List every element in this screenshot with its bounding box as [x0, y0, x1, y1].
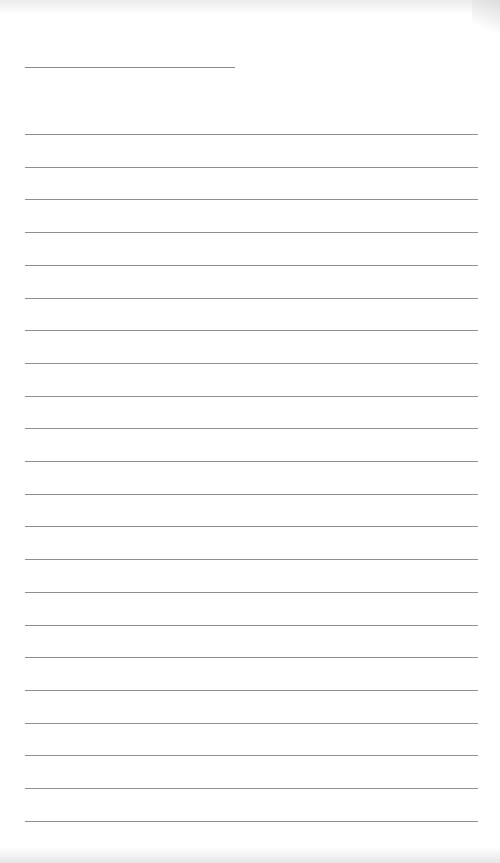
ruled-line [25, 461, 478, 462]
header-name-line [25, 67, 235, 68]
ruled-line [25, 625, 478, 626]
ruled-line [25, 232, 478, 233]
ruled-line [25, 723, 478, 724]
ruled-line [25, 559, 478, 560]
ruled-line [25, 363, 478, 364]
ruled-line [25, 396, 478, 397]
ruled-line [25, 690, 478, 691]
ruled-line [25, 330, 478, 331]
ruled-line [25, 592, 478, 593]
scan-shadow-bottom [0, 847, 500, 863]
ruled-line [25, 199, 478, 200]
ruled-line [25, 821, 478, 822]
ruled-line [25, 788, 478, 789]
ruled-line [25, 265, 478, 266]
ruled-line [25, 755, 478, 756]
scan-shadow-top [0, 0, 500, 14]
ruled-line [25, 167, 478, 168]
page-corner-fold [472, 0, 500, 40]
ruled-line [25, 298, 478, 299]
ruled-line [25, 494, 478, 495]
ruled-line [25, 657, 478, 658]
ruled-line [25, 428, 478, 429]
ruled-line [25, 134, 478, 135]
ruled-line [25, 526, 478, 527]
